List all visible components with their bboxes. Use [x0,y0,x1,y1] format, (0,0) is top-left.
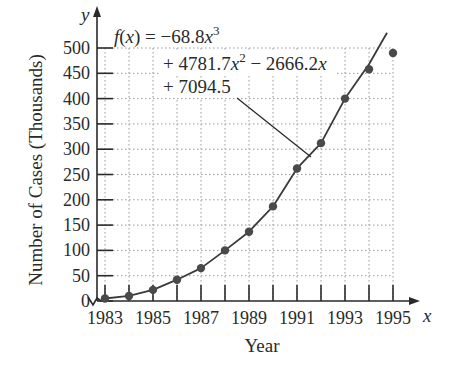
y-tick-label: 450 [63,63,90,83]
x-axis-title: Year [244,335,280,356]
x-tick-label: 1987 [183,308,219,328]
y-tick-label: 400 [63,89,90,109]
data-point [341,94,349,102]
data-point [317,139,325,147]
annotation-leader-line [237,98,311,157]
data-point [269,202,277,210]
x-tick-label: 1983 [87,308,123,328]
y-tick-label: 200 [63,190,90,210]
y-axis-title: Number of Cases (Thousands) [25,54,47,286]
y-tick-label: 150 [63,215,90,235]
equation-line-3: + 7094.5 [163,76,231,97]
y-tick-label: 350 [63,114,90,134]
y-tick-labels: 050100150200250300350400450500 [63,38,90,311]
data-point [101,294,109,302]
y-tick-label: 300 [63,139,90,159]
data-point [389,49,397,57]
x-axis-variable: x [422,305,432,326]
data-point [197,264,205,272]
x-tick-label: 1991 [279,308,315,328]
data-point [173,276,181,284]
y-tick-label: 500 [63,38,90,58]
x-tick-label: 1995 [375,308,411,328]
grid [97,48,393,301]
data-point [149,286,157,294]
axes [88,6,420,305]
data-point [365,65,373,73]
x-tick-labels: 1983198519871989199119931995 [87,308,411,328]
y-tick-label: 100 [63,240,90,260]
x-tick-label: 1989 [231,308,267,328]
y-tick-label: 50 [72,266,90,286]
y-tick-label: 250 [63,165,90,185]
data-point [293,164,301,172]
x-tick-label: 1993 [327,308,363,328]
x-tick-label: 1985 [135,308,171,328]
data-point [125,292,133,300]
data-point [221,246,229,254]
data-point [245,227,253,235]
y-axis-variable: y [79,4,90,25]
equation-line-2: + 4781.7x2 − 2666.2x [163,50,327,74]
equation-line-1: f(x) = −68.8x3 [114,23,220,48]
chart: 050100150200250300350400450500 198319851… [0,0,463,376]
